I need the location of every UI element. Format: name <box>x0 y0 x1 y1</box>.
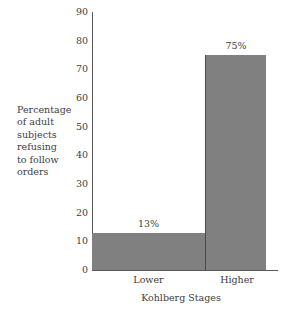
y-axis-tick-0: 0 <box>70 265 88 275</box>
bar-chart: Percentage of adult subjects refusing to… <box>0 0 296 330</box>
y-axis-tick-60: 60 <box>70 93 88 103</box>
y-axis-tick-50: 50 <box>70 122 88 132</box>
x-axis-title: Kohlberg Stages <box>92 292 270 303</box>
bar-higher[interactable] <box>206 55 266 270</box>
y-axis-tick-20: 20 <box>70 208 88 218</box>
bar-lower[interactable] <box>92 233 205 270</box>
y-axis-tick-40: 40 <box>70 150 88 160</box>
y-axis-tick-10: 10 <box>70 236 88 246</box>
plot-area: 13% 75% <box>92 12 270 270</box>
y-axis-tick-70: 70 <box>70 64 88 74</box>
y-axis-tick-80: 80 <box>70 36 88 46</box>
x-axis-line <box>92 270 278 271</box>
y-axis-tick-labels: 0102030405060708090 <box>68 0 88 330</box>
x-axis-category-higher: Higher <box>206 274 268 285</box>
x-axis-category-lower: Lower <box>92 274 205 285</box>
y-axis-tick-30: 30 <box>70 179 88 189</box>
bar-divider <box>205 55 206 270</box>
bar-value-label-lower: 13% <box>119 219 179 229</box>
bar-value-label-higher: 75% <box>206 41 266 51</box>
y-axis-tick-90: 90 <box>70 7 88 17</box>
